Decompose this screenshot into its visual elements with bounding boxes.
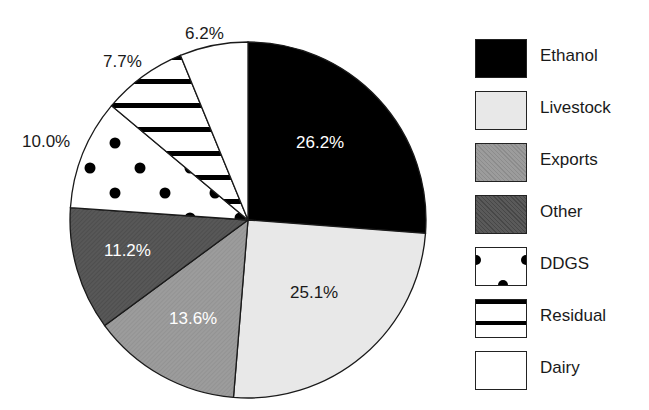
legend-label: Residual bbox=[540, 306, 606, 326]
swatch-exports bbox=[475, 143, 527, 182]
slice-label-residual: 7.7% bbox=[103, 52, 142, 72]
slice-label-other: 11.2% bbox=[104, 241, 151, 261]
legend-label: Dairy bbox=[540, 358, 580, 378]
swatch-livestock bbox=[475, 91, 527, 130]
pie-slices bbox=[70, 42, 426, 398]
swatch-dairy bbox=[475, 351, 527, 390]
pie-slice-livestock bbox=[233, 220, 425, 398]
legend-label: Livestock bbox=[540, 98, 611, 118]
swatch-ethanol bbox=[475, 39, 527, 78]
legend-label: DDGS bbox=[540, 254, 589, 274]
legend-label: Other bbox=[540, 202, 583, 222]
slice-label-exports: 13.6% bbox=[169, 309, 217, 329]
legend-label: Exports bbox=[540, 150, 598, 170]
slice-label-ethanol: 26.2% bbox=[296, 133, 344, 153]
swatch-residual bbox=[475, 299, 527, 338]
slice-label-ddgs: 10.0% bbox=[22, 132, 70, 152]
legend-label: Ethanol bbox=[540, 46, 598, 66]
swatch-ddgs bbox=[475, 247, 527, 286]
slice-label-dairy: 6.2% bbox=[185, 24, 224, 44]
slice-label-livestock: 25.1% bbox=[290, 283, 338, 303]
swatch-other bbox=[475, 195, 527, 234]
